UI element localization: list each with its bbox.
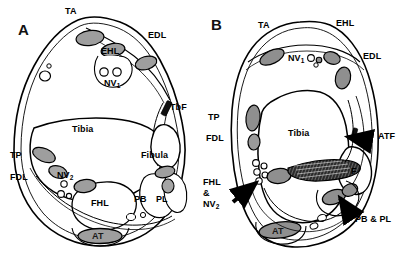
panel-a-fibula: [151, 125, 180, 169]
panel-a-nv2-vessel-2: [58, 191, 65, 198]
panel-a-label-nv2: NV2: [57, 170, 73, 181]
panel-b-nv1-vessel-2: [316, 57, 322, 63]
panel-a-peroneal-tendon-2: [162, 179, 174, 193]
panel-b-nv2-vessel-5: [256, 178, 262, 184]
panel-b-label-ehl: EHL: [336, 18, 354, 28]
panel-b-nv1-vessel-3: [314, 63, 318, 67]
panel-a-label-tbf: TbF: [170, 102, 187, 112]
panel-b-label-nv1: NV1: [288, 53, 304, 64]
panel-b-nv2-vessel-3: [254, 169, 260, 175]
panel-a-label-at: AT: [92, 231, 104, 241]
panel-b-label-pb-pl: PB & PL: [355, 214, 391, 224]
panel-a-label-fibula: Fibula: [141, 150, 168, 160]
panel-b-letter: B: [211, 16, 222, 33]
panel-a-label-pb: PB: [134, 194, 147, 204]
panel-b-nv2-vessel-2: [261, 163, 267, 169]
panel-b-label-fhl-nv2-line3: NV2: [203, 199, 221, 210]
panel-a-label-pl: PL: [156, 194, 168, 204]
panel-b-label-ta: TA: [258, 20, 270, 30]
panel-a-label-ta: TA: [65, 6, 77, 16]
panel-a-letter: A: [18, 21, 29, 38]
panel-b-label-edl: EDL: [363, 51, 381, 61]
panel-a-nv2-vessel-3: [66, 193, 71, 198]
panel-b-fdl-tendon: [247, 134, 260, 151]
panel-b-label-at: AT: [272, 226, 284, 236]
panel-a-label-fhl: FHL: [91, 198, 109, 208]
panel-a-nv1-vessel-1: [100, 68, 108, 76]
panel-b-nv2-vessel-1: [253, 160, 260, 167]
panel-b-label-fhl-nv2-line2: &: [203, 188, 221, 199]
panel-a-vessel-posterior-1: [126, 213, 135, 220]
panel-b-nv1-vessel-1: [308, 55, 315, 62]
panel-b-label-f: F: [351, 166, 357, 176]
panel-a-nv1-vessel-2: [113, 68, 121, 76]
panel-a-vessel-small-2: [40, 71, 51, 81]
panel-b-label-tibia: Tibia: [288, 128, 309, 138]
panel-a-label-nv1: NV1: [104, 78, 120, 89]
panel-a-nv2-vessel-1: [61, 181, 67, 187]
panel-a-vessel-small-1: [47, 64, 51, 68]
panel-a-vessel-posterior-2: [140, 212, 145, 217]
panel-b-label-fhl-nv2-line1: FHL: [203, 177, 221, 188]
panel-a-label-ehl: EHL: [101, 46, 119, 56]
cross-section-drawing: [0, 0, 412, 254]
panel-a-label-edl: EDL: [148, 30, 166, 40]
panel-a-label-fdl: FDL: [10, 172, 28, 182]
panel-a-label-tp: TP: [10, 150, 22, 160]
anatomical-figure: A B TA EHL EDL NV1 TbF Tibia Fibula TP F…: [0, 0, 412, 254]
panel-a-label-tibia: Tibia: [72, 124, 93, 134]
panel-b-label-fhl-nv2: FHL & NV2: [203, 177, 221, 210]
panel-b-label-tp: TP: [208, 112, 220, 122]
panel-b-label-atf: ATF: [378, 131, 395, 141]
panel-b-label-fdl: FDL: [206, 133, 224, 143]
